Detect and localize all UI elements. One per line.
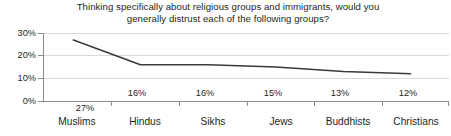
x-axis-label-hindus: Hindus <box>111 117 179 127</box>
chart-title-line-1: Thinking specifically about religious gr… <box>28 1 428 13</box>
x-axis-line <box>43 101 449 102</box>
y-tick-0 <box>38 101 43 102</box>
value-label-jews: 15% <box>245 89 301 98</box>
x-axis-label-christians: Christians <box>382 117 450 127</box>
line-chart: Thinking specifically about religious gr… <box>0 0 451 136</box>
value-label-muslims: 27% <box>57 104 113 113</box>
x-axis-label-sikhs: Sikhs <box>179 117 247 127</box>
x-axis-label-jews: Jews <box>247 117 315 127</box>
x-tick-3 <box>247 101 248 106</box>
y-axis-label-20: 20% <box>0 51 36 60</box>
x-axis-label-muslims: Muslims <box>43 117 111 127</box>
series-polyline <box>73 40 411 74</box>
x-tick-2 <box>179 101 180 106</box>
y-axis-label-10: 10% <box>0 74 36 83</box>
value-label-hindus: 16% <box>109 89 165 98</box>
chart-title: Thinking specifically about religious gr… <box>28 1 428 24</box>
y-axis-label-30: 30% <box>0 29 36 38</box>
x-tick-6 <box>448 101 449 106</box>
chart-title-line-2: generally distrust each of the following… <box>28 13 428 25</box>
value-label-christians: 12% <box>380 89 436 98</box>
y-axis-label-0: 0% <box>0 97 36 106</box>
x-tick-4 <box>314 101 315 106</box>
value-label-sikhs: 16% <box>177 89 233 98</box>
x-tick-5 <box>382 101 383 106</box>
x-axis-label-buddhists: Buddhists <box>314 117 382 127</box>
value-label-buddhists: 13% <box>312 89 368 98</box>
